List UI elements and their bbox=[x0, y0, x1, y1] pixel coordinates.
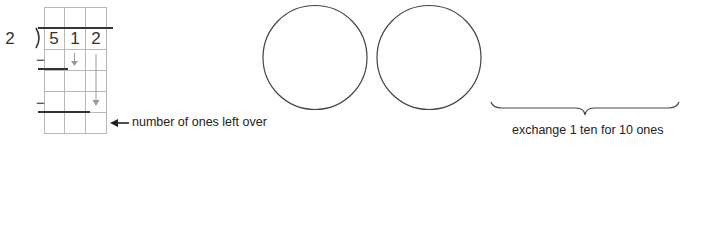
exchange-label: exchange 1 ten for 10 ones bbox=[512, 123, 664, 137]
